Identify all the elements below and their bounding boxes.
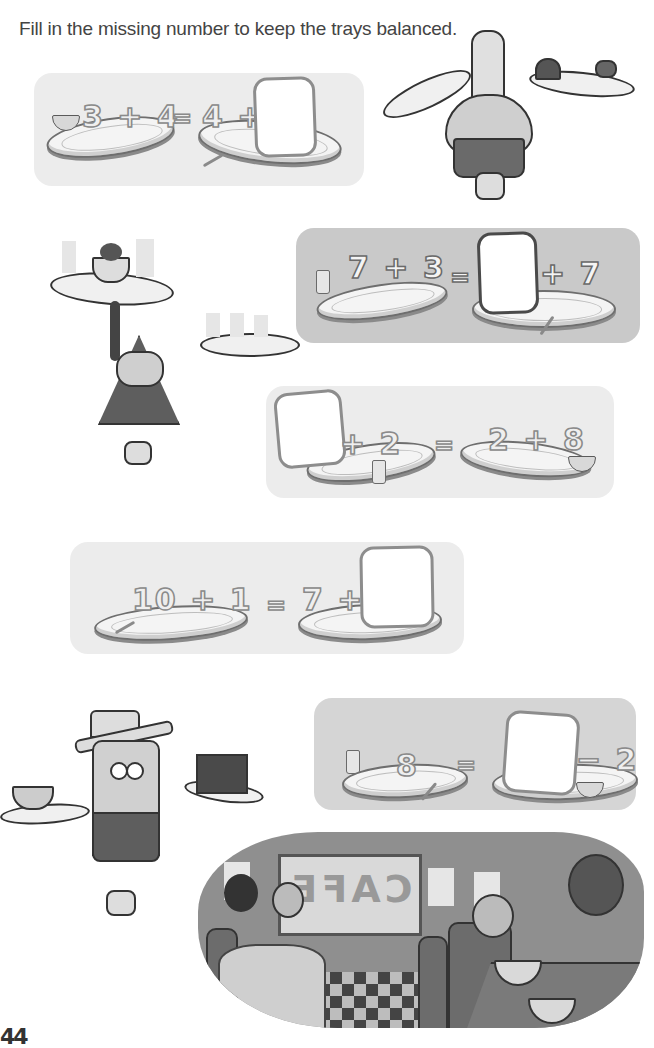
- answer-box-5[interactable]: [501, 710, 581, 797]
- left-expression: + 2: [340, 426, 402, 461]
- equals-sign: =: [456, 752, 478, 780]
- customer: [472, 894, 514, 938]
- page-number: 44: [0, 1024, 27, 1048]
- glass-icon: [316, 270, 330, 294]
- equals-sign: =: [266, 592, 288, 620]
- right-expression: 2 + 8: [488, 422, 586, 457]
- equals-sign: =: [172, 105, 194, 133]
- left-expression: 10 + 1: [132, 582, 253, 617]
- answer-box-2[interactable]: [477, 231, 540, 315]
- booth: [418, 936, 448, 1028]
- right-expression: + 7: [540, 256, 602, 291]
- customer: [224, 874, 258, 912]
- customer: [272, 882, 304, 918]
- left-expression: 3 + 4: [82, 99, 180, 134]
- left-expression: 7 + 3: [348, 250, 446, 285]
- equals-sign: =: [434, 432, 456, 460]
- answer-box-1[interactable]: [253, 76, 318, 158]
- problem-1-panel: 3 + 4 = 4 +: [34, 73, 364, 186]
- problem-5-panel: 8 = − 2: [314, 698, 636, 810]
- round-table: [218, 944, 326, 1028]
- right-expression: 7 +: [302, 582, 364, 617]
- equals-sign: =: [450, 264, 472, 292]
- triangle-waiter-illustration: [40, 235, 290, 475]
- glass-icon: [346, 750, 360, 774]
- answer-box-4[interactable]: [359, 545, 434, 628]
- left-expression: 8: [396, 748, 419, 783]
- chef-illustration: [375, 30, 635, 200]
- glass-icon: [372, 460, 386, 484]
- customer: [568, 854, 624, 916]
- poster: [428, 868, 454, 906]
- problem-4-panel: 10 + 1 = 7 +: [70, 542, 464, 654]
- checkered-floor: [318, 972, 428, 1028]
- problem-2-panel: 7 + 3 = + 7: [296, 228, 640, 343]
- problem-3-panel: + 2 = 2 + 8: [266, 386, 614, 498]
- answer-box-3[interactable]: [273, 388, 347, 470]
- spoon-icon: [203, 154, 224, 168]
- cafe-scene-illustration: CAFE: [198, 832, 644, 1028]
- right-expression: − 2: [576, 742, 638, 777]
